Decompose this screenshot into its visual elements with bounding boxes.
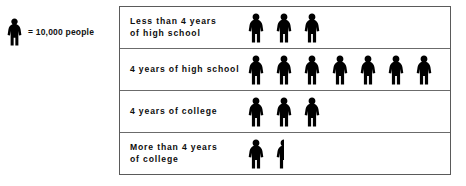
person-figure-icon (247, 55, 265, 85)
person-figure-half-icon (275, 139, 284, 169)
row-label: 4 years of college (120, 106, 245, 117)
person-figure-icon (303, 97, 321, 127)
chart-row: Less than 4 years of high school (120, 7, 450, 49)
person-figure-icon (247, 97, 265, 127)
row-label-line: More than 4 years (130, 142, 241, 153)
person-figure-icon (303, 13, 321, 43)
person-figure-icon (359, 55, 377, 85)
person-figure-icon (275, 55, 293, 85)
row-label-line: of college (130, 154, 241, 165)
row-label: Less than 4 years of high school (120, 16, 245, 39)
pictograph-chart: = 10,000 people Less than 4 years of hig… (0, 0, 466, 186)
row-icons (245, 49, 450, 90)
person-figure-icon (303, 55, 321, 85)
person-figure-icon (331, 55, 349, 85)
person-figure-icon (415, 55, 433, 85)
row-label: 4 years of high school (120, 64, 245, 75)
person-figure-icon (275, 97, 293, 127)
legend-label: = 10,000 people (28, 28, 94, 37)
chart-row: 4 years of college (120, 91, 450, 133)
row-label-line: 4 years of college (130, 106, 241, 117)
row-icons (245, 91, 450, 132)
legend: = 10,000 people (6, 12, 114, 52)
row-label-line: of high school (130, 28, 241, 39)
person-figure-icon (247, 13, 265, 43)
person-figure-icon (387, 55, 405, 85)
row-label-line: 4 years of high school (130, 64, 241, 75)
chart-row: More than 4 years of college (120, 133, 450, 174)
row-label-line: Less than 4 years (130, 16, 241, 27)
row-label: More than 4 years of college (120, 142, 245, 165)
person-figure-icon (247, 139, 265, 169)
person-figure-icon (275, 13, 293, 43)
row-icons (245, 7, 450, 48)
chart-row: 4 years of high school (120, 49, 450, 91)
chart-box: Less than 4 years of high school 4 years… (119, 6, 451, 175)
person-figure-icon (6, 17, 23, 47)
row-icons (245, 133, 450, 174)
